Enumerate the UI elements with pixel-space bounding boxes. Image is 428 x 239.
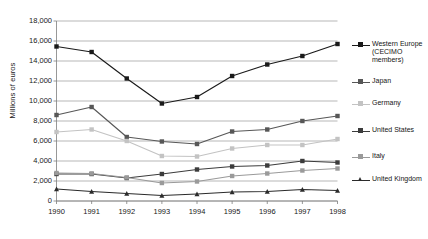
line-chart: Millions of euros 02,0004,0006,0008,0001… <box>0 0 428 239</box>
x-tick-label: 1996 <box>247 207 287 216</box>
legend-item-label: Japan <box>370 77 391 85</box>
x-tick-label: 1991 <box>72 207 112 216</box>
legend-item[interactable]: Western Europe (CECIMO members) <box>352 40 428 65</box>
x-tick-label: 1992 <box>107 207 147 216</box>
x-tick-label: 1994 <box>177 207 217 216</box>
legend-item-label: United States <box>370 126 414 134</box>
legend-item[interactable]: United Kingdom <box>352 175 422 185</box>
legend-item[interactable]: Japan <box>352 77 391 87</box>
x-axis-tick-labels: 199019911992199319941995199619971998 <box>0 0 428 239</box>
x-tick-label: 1995 <box>212 207 252 216</box>
x-tick-label: 1993 <box>142 207 182 216</box>
legend-marker-icon <box>352 78 370 87</box>
x-tick-label: 1997 <box>282 207 322 216</box>
legend-marker-icon <box>352 100 370 109</box>
legend-item[interactable]: Italy <box>352 152 385 162</box>
legend-item-label: Italy <box>370 152 385 160</box>
legend-marker-icon <box>352 153 370 162</box>
legend-item[interactable]: Germany <box>352 99 401 109</box>
legend-marker-icon <box>352 127 370 136</box>
legend-item-label: Western Europe (CECIMO members) <box>370 40 428 65</box>
legend-marker-icon <box>352 41 370 50</box>
legend-marker-icon <box>352 176 370 185</box>
legend-item-label: Germany <box>370 99 401 107</box>
x-tick-label: 1990 <box>37 207 77 216</box>
legend-item[interactable]: United States <box>352 126 414 136</box>
legend-item-label: United Kingdom <box>370 175 422 183</box>
x-tick-label: 1998 <box>318 207 358 216</box>
